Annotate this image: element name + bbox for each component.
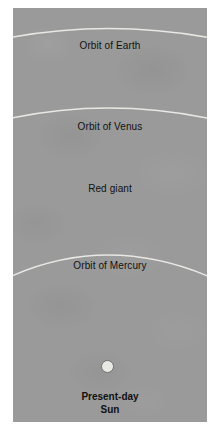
red-giant-disc-panel: Orbit of Earth Orbit of Venus Red giant …: [13, 8, 207, 422]
orbit-of-earth-label: Orbit of Earth: [13, 40, 207, 51]
red-giant-label: Red giant: [13, 183, 207, 194]
red-giant-diagram: Orbit of Earth Orbit of Venus Red giant …: [0, 0, 215, 430]
present-day-sun-label-line1: Present-day: [13, 390, 207, 403]
orbit-of-venus-label: Orbit of Venus: [13, 121, 207, 132]
orbit-of-mercury-label: Orbit of Mercury: [13, 260, 207, 271]
present-day-sun-label-line2: Sun: [13, 403, 207, 416]
present-day-sun-icon: [101, 360, 114, 373]
present-day-sun-label: Present-day Sun: [13, 390, 207, 416]
orbit-of-earth-arc: [13, 29, 207, 40]
orbit-of-venus-arc: [13, 108, 207, 120]
